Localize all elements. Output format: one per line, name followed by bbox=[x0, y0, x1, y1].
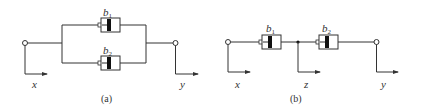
label-y-a: y bbox=[179, 78, 185, 90]
panel-a: b1 b2 x y (a) bbox=[23, 6, 199, 105]
label-y-b: y bbox=[380, 78, 386, 90]
panel-b: b1 b2 x z y (b) bbox=[226, 22, 399, 105]
label-x-a: x bbox=[31, 78, 37, 90]
output-terminal-b bbox=[374, 40, 379, 45]
input-terminal-a bbox=[23, 41, 28, 46]
damper-b1-a bbox=[98, 18, 120, 32]
damper-diagram: b1 b2 x y (a) bbox=[0, 0, 421, 112]
label-b2-b: b2 bbox=[322, 22, 332, 36]
label-b1-b: b1 bbox=[266, 22, 276, 36]
damper-b2-a bbox=[98, 56, 120, 70]
output-terminal-a bbox=[173, 41, 178, 46]
label-x-b: x bbox=[234, 78, 240, 90]
damper-b1-b bbox=[259, 35, 281, 49]
caption-b: (b) bbox=[290, 93, 302, 105]
label-b2-a: b2 bbox=[103, 44, 113, 58]
label-z-b: z bbox=[303, 78, 309, 90]
damper-b2-b bbox=[316, 35, 338, 49]
label-b1-a: b1 bbox=[103, 6, 113, 20]
caption-a: (a) bbox=[101, 93, 112, 105]
input-terminal-b bbox=[226, 40, 231, 45]
